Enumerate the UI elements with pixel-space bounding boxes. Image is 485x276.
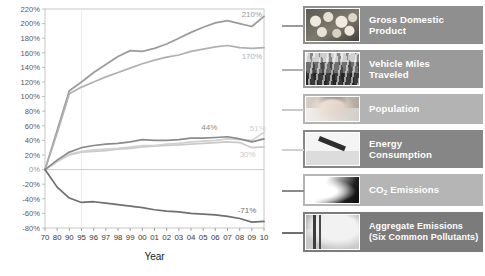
x-axis-tick-label: 00 <box>138 233 147 242</box>
chart-figure: 220%200%180%160%140%120%100%80%60%40%20%… <box>0 0 485 276</box>
x-axis-tick-label: 02 <box>162 233 171 242</box>
x-axis-tick-label: 08 <box>235 233 244 242</box>
legend-label-line1: Aggregate Emissions <box>369 221 481 232</box>
y-axis-tick-label: 80% <box>25 107 40 116</box>
legend-item-label: Vehicle MilesTraveled <box>360 58 481 81</box>
x-axis-tick-label: 03 <box>174 233 183 242</box>
series-value-label-5: 44% <box>201 123 217 132</box>
legend-label-line1: Energy <box>369 138 481 150</box>
x-axis-tick-label: 99 <box>126 233 135 242</box>
legend-item-label: EnergyConsumption <box>360 138 481 161</box>
y-axis-tick-label: 120% <box>21 78 41 87</box>
x-axis-tick-label: 98 <box>114 233 123 242</box>
y-axis-tick-label: 200% <box>21 19 41 28</box>
y-axis-tick-label: 160% <box>21 49 41 58</box>
series-value-label-3: 30% <box>240 150 256 159</box>
y-axis-tick-label: -60% <box>22 209 40 218</box>
legend-label-line1: CO2 Emissions <box>369 184 481 196</box>
legend-thumbnail-image <box>305 8 360 42</box>
chart-plot-panel: 220%200%180%160%140%120%100%80%60%40%20%… <box>0 0 282 276</box>
legend-thumbnail-image <box>305 52 360 86</box>
legend-item-label: Aggregate Emissions(Six Common Pollutant… <box>360 221 481 243</box>
legend-item[interactable]: Aggregate Emissions(Six Common Pollutant… <box>303 212 483 252</box>
y-axis-tick-label: -80% <box>22 224 40 233</box>
legend-item[interactable]: CO2 Emissions <box>303 174 483 206</box>
legend-connector-line <box>282 25 304 27</box>
x-axis-tick-label: 95 <box>77 233 86 242</box>
fuel-pump-photo-icon <box>306 133 359 165</box>
x-axis-tick-label: 96 <box>89 233 98 242</box>
y-axis-tick-label: -40% <box>22 195 40 204</box>
legend-label-line2: (Six Common Pollutants) <box>369 232 481 243</box>
co2-subscript: 2 <box>384 189 388 196</box>
legend-item-label: CO2 Emissions <box>360 184 481 196</box>
baby-photo-icon <box>306 97 359 121</box>
x-axis-tick-label: 70 <box>41 233 50 242</box>
tailpipe-smoke-photo-icon <box>306 177 359 203</box>
traffic-photo-icon <box>306 53 359 85</box>
legend-item[interactable]: Population <box>303 94 483 124</box>
series-value-label-1: 210% <box>242 10 262 19</box>
legend-connector-line <box>282 232 304 234</box>
x-axis-tick-label: 04 <box>187 233 196 242</box>
legend-connector-line <box>282 69 304 71</box>
y-axis-tick-label: 60% <box>25 122 40 131</box>
series-value-label-6: -71% <box>238 206 257 215</box>
legend-label-line1: Population <box>369 103 481 115</box>
legend-item[interactable]: EnergyConsumption <box>303 130 483 168</box>
y-axis-tick-label: -20% <box>22 180 40 189</box>
smokestacks-photo-icon <box>306 215 359 249</box>
legend-thumbnail-image <box>305 214 360 250</box>
x-axis-title: Year <box>144 251 165 262</box>
y-axis-tick-label: 20% <box>25 151 40 160</box>
legend-label-line1: Gross Domestic <box>369 14 481 26</box>
y-axis-tick-label: 40% <box>25 136 40 145</box>
y-axis-tick-label: 100% <box>21 92 41 101</box>
y-axis-tick-label: 180% <box>21 34 41 43</box>
legend-item[interactable]: Gross DomesticProduct <box>303 6 483 44</box>
legend-thumbnail-image <box>305 96 360 122</box>
x-axis-tick-label: 07 <box>223 233 232 242</box>
y-axis-tick-label: 140% <box>21 63 41 72</box>
y-axis-tick-label: 0% <box>29 165 40 174</box>
legend-connector-line <box>282 149 304 151</box>
legend-label-line2: Consumption <box>369 149 481 161</box>
legend-thumbnail-image <box>305 176 360 204</box>
series-value-label-4: 51% <box>250 124 266 133</box>
x-axis-tick-label: 01 <box>150 233 159 242</box>
x-axis-tick-label: 05 <box>199 233 208 242</box>
x-axis-tick-label: 06 <box>211 233 220 242</box>
plot-area-border <box>45 9 264 228</box>
legend-thumbnail-image <box>305 132 360 166</box>
series-value-label-2: 170% <box>242 52 262 61</box>
x-axis-tick-label: 10 <box>260 233 269 242</box>
x-axis-tick-label: 09 <box>247 233 256 242</box>
legend-label-line1: Vehicle Miles <box>369 58 481 70</box>
x-axis-tick-label: 90 <box>65 233 74 242</box>
y-axis-tick-label: 220% <box>21 5 41 14</box>
legend-connector-line <box>282 190 304 192</box>
coins-photo-icon <box>306 9 359 41</box>
legend-item-label: Population <box>360 103 481 115</box>
legend-item[interactable]: Vehicle MilesTraveled <box>303 50 483 88</box>
legend-label-line2: Traveled <box>369 69 481 81</box>
x-axis-tick-label: 97 <box>101 233 110 242</box>
legend-panel: Gross DomesticProductVehicle MilesTravel… <box>282 0 485 276</box>
legend-item-label: Gross DomesticProduct <box>360 14 481 37</box>
line-chart-svg: 220%200%180%160%140%120%100%80%60%40%20%… <box>0 0 282 276</box>
legend-label-line2: Product <box>369 25 481 37</box>
x-axis-tick-label: 80 <box>53 233 62 242</box>
legend-connector-line <box>282 109 304 111</box>
